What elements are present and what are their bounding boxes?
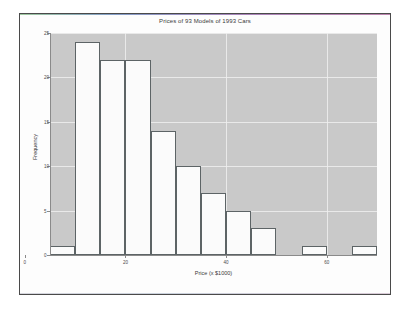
- chart-title: Prices of 93 Models of 1993 Cars: [20, 18, 390, 24]
- x-tick-mark: [226, 255, 227, 258]
- y-tick-mark: [47, 211, 50, 212]
- histogram-bar: [100, 60, 125, 255]
- plot-panel: [50, 33, 377, 255]
- figure-frame: Prices of 93 Models of 1993 Cars 0204060…: [19, 13, 391, 295]
- gridline-vertical: [327, 33, 328, 255]
- histogram-bar: [50, 246, 75, 255]
- histogram-bar: [151, 131, 176, 255]
- x-tick-mark: [125, 255, 126, 258]
- frame-bottom-hairline: [20, 293, 390, 294]
- gridline-horizontal: [50, 33, 377, 34]
- frame-top-hairline: [20, 14, 390, 15]
- histogram-bar: [201, 193, 226, 255]
- y-tick-mark: [47, 255, 50, 256]
- x-tick-label: 0: [24, 260, 27, 265]
- x-tick-label: 60: [324, 260, 329, 265]
- x-tick-label: 40: [224, 260, 229, 265]
- histogram-bar: [302, 246, 327, 255]
- histogram-bar: [251, 228, 276, 255]
- x-axis-line: [50, 255, 377, 256]
- histogram-bar: [226, 211, 251, 255]
- x-tick-label: 20: [123, 260, 128, 265]
- y-axis-line: [50, 33, 51, 255]
- histogram-bar: [125, 60, 150, 255]
- y-axis-label: Frequency: [32, 117, 38, 177]
- histogram-bar: [176, 166, 201, 255]
- x-axis-label: Price (x $1000): [50, 270, 377, 276]
- x-tick-mark: [25, 255, 26, 258]
- histogram-bar: [352, 246, 377, 255]
- x-tick-mark: [327, 255, 328, 258]
- histogram-bar: [75, 42, 100, 255]
